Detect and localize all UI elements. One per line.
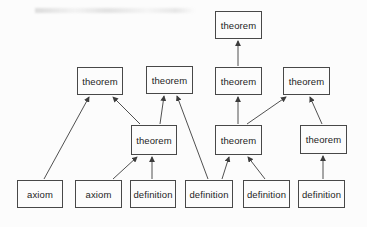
node-definition-3: definition — [243, 180, 290, 208]
arrow-theorem-r3c2-to-theorem-r2c4 — [247, 97, 286, 124]
node-axiom-2: axiom — [75, 180, 122, 208]
arrow-theorem-r3c1-to-theorem-r2c2 — [160, 96, 164, 124]
node-definition-2: definition — [185, 180, 233, 208]
node-theorem-r2c1: theorem — [77, 67, 123, 95]
node-theorem-top: theorem — [215, 11, 262, 39]
node-axiom-1: axiom — [17, 180, 63, 208]
node-theorem-r3c3: theorem — [300, 125, 347, 154]
arrow-theorem-r3c3-to-theorem-r2c4 — [310, 97, 322, 124]
node-theorem-r3c2: theorem — [215, 125, 262, 155]
arrow-axiom-1-to-theorem-r2c1 — [44, 97, 89, 179]
node-theorem-r3c1: theorem — [131, 125, 177, 155]
arrow-definition-2-to-theorem-r2c2 — [177, 96, 208, 179]
node-definition-4: definition — [298, 180, 345, 208]
arrow-definition-2-to-theorem-r3c2 — [222, 157, 229, 179]
arrow-theorem-r3c1-to-theorem-r2c1 — [113, 97, 140, 124]
node-theorem-r2c4: theorem — [283, 67, 330, 95]
arrow-axiom-2-to-theorem-r3c1 — [113, 157, 137, 179]
node-theorem-r2c2: theorem — [146, 66, 193, 94]
arrow-definition-3-to-theorem-r3c2 — [248, 157, 265, 179]
dependency-diagram: theorem theorem theorem theorem theorem … — [0, 0, 367, 227]
node-definition-1: definition — [130, 180, 176, 208]
node-theorem-r2c3: theorem — [215, 67, 262, 95]
